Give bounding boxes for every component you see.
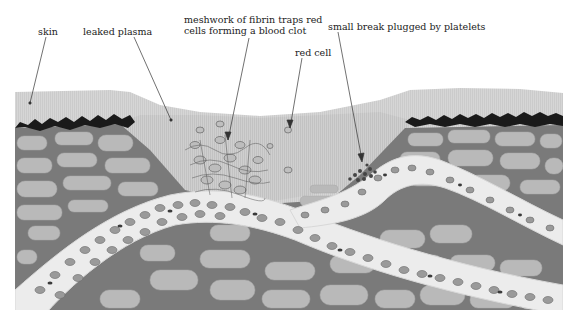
label-red-cell: red cell	[295, 47, 331, 58]
blood-clot-diagram: skin leaked plasma meshwork of fibrin tr…	[0, 0, 577, 332]
label-leaked-plasma: leaked plasma	[83, 26, 152, 37]
label-skin: skin	[38, 26, 58, 37]
label-fibrin-line2: cells forming a blood clot	[184, 25, 306, 36]
illustration	[0, 0, 577, 332]
label-fibrin-line1: meshwork of fibrin traps red	[184, 14, 322, 25]
label-platelet-plug: small break plugged by platelets	[328, 21, 486, 32]
